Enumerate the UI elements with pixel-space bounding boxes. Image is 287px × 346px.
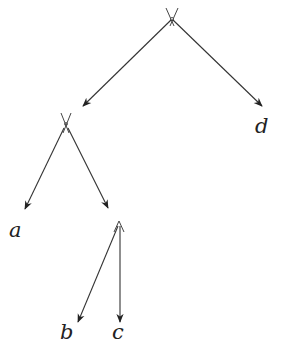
edge-root-d bbox=[173, 20, 262, 106]
edge-n2-b bbox=[78, 226, 118, 322]
leaf-label-d: d bbox=[255, 116, 268, 137]
edge-n1-a bbox=[25, 128, 64, 209]
edge-root-n1 bbox=[83, 20, 171, 106]
leaf-label-c: c bbox=[112, 322, 124, 343]
edge-n1-n2 bbox=[68, 128, 108, 208]
leaf-label-b: b bbox=[60, 322, 73, 343]
tree-diagram bbox=[0, 0, 287, 346]
leaf-label-a: a bbox=[9, 220, 22, 241]
n2-node-caret-icon bbox=[114, 221, 124, 232]
